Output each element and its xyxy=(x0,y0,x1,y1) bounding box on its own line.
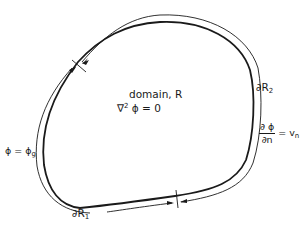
equation-rest: ϕ = 0 xyxy=(129,102,161,114)
domain-boundary xyxy=(43,22,253,208)
neumann-equals: = v xyxy=(275,127,295,138)
boundary-r2-outline xyxy=(82,15,261,202)
dirichlet-lhs: ϕ = ϕ xyxy=(5,145,32,156)
boundary-r1-symbol: ∂R xyxy=(72,207,85,219)
domain-diagram xyxy=(0,0,302,228)
dirichlet-subscript: g xyxy=(32,150,36,158)
neumann-condition: ∂ ϕ ∂n = vn xyxy=(259,122,299,144)
boundary-r2-label: ∂R2 xyxy=(256,82,273,95)
arrow-icon xyxy=(167,201,174,205)
boundary-r1-label: ∂R1 xyxy=(72,208,89,221)
fraction-numerator: ∂ ϕ xyxy=(259,122,275,134)
boundary-r2-subscript: 2 xyxy=(269,87,273,95)
fraction-denominator: ∂n xyxy=(259,134,275,145)
arrow-icon xyxy=(180,199,187,203)
boundary-r2-symbol: ∂R xyxy=(256,81,269,93)
neumann-subscript: n xyxy=(295,132,299,140)
nabla-symbol: ∇ xyxy=(117,102,124,114)
boundary-separator-tick-bottom xyxy=(176,190,178,208)
dirichlet-condition: ϕ = ϕg xyxy=(5,146,36,158)
boundary-r1-subscript: 1 xyxy=(85,213,89,221)
normal-derivative-fraction: ∂ ϕ ∂n xyxy=(259,122,275,144)
laplace-equation: ∇2 ϕ = 0 xyxy=(117,103,161,114)
domain-label: domain, R xyxy=(129,89,182,100)
